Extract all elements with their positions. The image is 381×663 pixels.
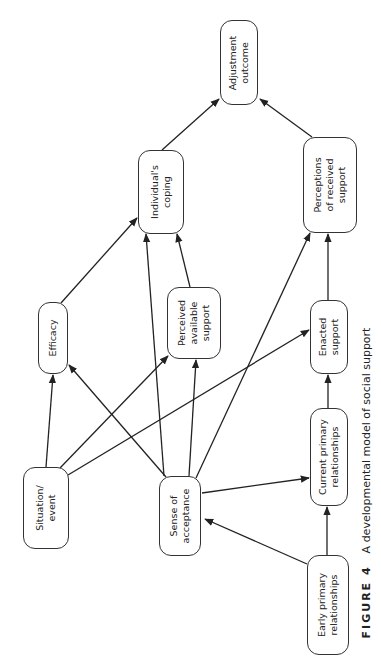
node-early-primary-relationships: Early primary relationships xyxy=(307,555,349,655)
node-label: Efficacy xyxy=(47,319,59,356)
node-label: Perceived available support xyxy=(176,300,212,346)
edge-acceptance-to-perceived-available xyxy=(189,360,196,476)
edge-acceptance-to-current xyxy=(202,478,309,493)
edge-perceived-available-to-coping xyxy=(177,234,190,287)
node-label: Adjustment outcome xyxy=(227,35,251,90)
edge-early-to-acceptance xyxy=(205,519,307,564)
node-individuals-coping: Individual's coping xyxy=(138,150,184,234)
node-perceptions-received-support: Perceptions of received support xyxy=(303,137,357,233)
figure-title: A developmental model of social support xyxy=(360,328,373,554)
figure-caption: FIGURE 4A developmental model of social … xyxy=(360,328,373,639)
node-label: Situation/ event xyxy=(34,485,58,531)
node-label: Sense of acceptance xyxy=(168,489,192,544)
diagram-canvas: Adjustment outcome Individual's coping P… xyxy=(0,0,381,663)
edge-situation-to-efficacy xyxy=(46,375,53,467)
node-adjustment-outcome: Adjustment outcome xyxy=(220,20,258,105)
node-perceived-available-support: Perceived available support xyxy=(167,287,221,359)
edge-acceptance-to-efficacy xyxy=(69,365,166,477)
node-label: Early primary relationships xyxy=(316,573,340,637)
node-label: Perceptions of received support xyxy=(312,157,348,212)
node-current-primary-relationships: Current primary relationships xyxy=(310,408,348,506)
edge-coping-to-adjustment xyxy=(162,99,219,150)
node-label: Current primary relationships xyxy=(317,419,341,495)
edge-perceptions-to-adjustment xyxy=(260,99,312,137)
node-situation-event: Situation/ event xyxy=(23,467,69,549)
node-efficacy: Efficacy xyxy=(38,302,68,374)
node-label: Individual's coping xyxy=(149,165,173,219)
edge-efficacy-to-coping xyxy=(61,218,137,303)
node-sense-of-acceptance: Sense of acceptance xyxy=(159,476,201,556)
node-label: Enacted support xyxy=(317,318,341,357)
edge-acceptance-to-coping xyxy=(146,234,164,476)
node-enacted-support: Enacted support xyxy=(310,300,348,374)
figure-label: FIGURE 4 xyxy=(360,565,373,638)
